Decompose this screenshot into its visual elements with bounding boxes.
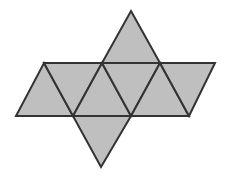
face-top-up [102,11,160,63]
face-bottom-down [73,116,131,167]
figure-canvas [0,0,228,183]
polyhedron-net-diagram [0,0,228,183]
net-faces-group [16,11,215,167]
